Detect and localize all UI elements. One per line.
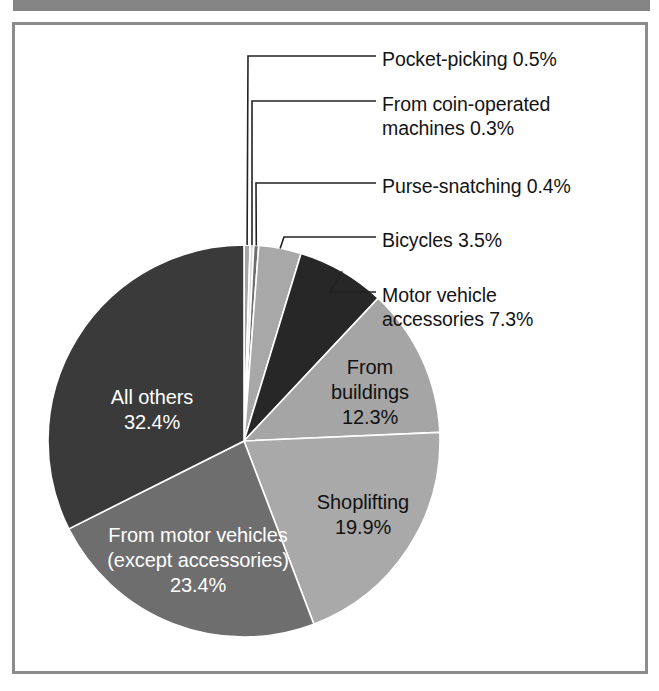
slice-label-from-buildings-line1: From [300,355,440,380]
slice-label-from-motor-vehicles-line2: (except accessories) [78,548,318,573]
slice-label-from-buildings-line2: buildings [300,380,440,405]
slice-label-all-others-line2: 32.4% [72,410,232,435]
callout-label-motor-vehicle-accessories-line2: accessories 7.3% [382,307,533,331]
callout-label-bicycles: Bicycles 3.5% [382,228,502,252]
slice-label-from-motor-vehicles-line3: 23.4% [78,573,318,598]
slice-label-from-motor-vehicles-line1: From motor vehicles [78,523,318,548]
callout-label-coin-operated-line2: machines 0.3% [382,116,514,140]
slice-label-from-buildings-line3: 12.3% [300,405,440,430]
leader-line-pocket-picking [247,56,376,245]
leader-line-bicycles [280,237,376,248]
chart-page: Pocket-picking 0.5% From coin-operated m… [0,0,659,691]
leader-line-purse-snatching [256,183,376,245]
callout-label-pocket-picking: Pocket-picking 0.5% [382,47,557,71]
slice-label-all-others-line1: All others [72,385,232,410]
callout-label-motor-vehicle-accessories-line1: Motor vehicle [382,283,497,307]
callout-label-coin-operated-line1: From coin-operated [382,92,550,116]
slice-label-shoplifting-line1: Shoplifting [288,490,438,515]
callout-label-purse-snatching: Purse-snatching 0.4% [382,174,571,198]
leader-line-from-coin-operated-machines [252,101,376,245]
